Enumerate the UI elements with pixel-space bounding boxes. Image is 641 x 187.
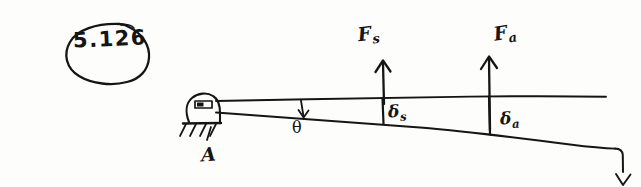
deflection-ds-base: δ xyxy=(387,101,399,122)
horizontal-reference-line xyxy=(216,96,606,101)
pin-support-A xyxy=(180,94,221,140)
support-label-a: A xyxy=(200,145,216,165)
angle-indicator-arrow xyxy=(299,101,309,118)
sloped-bar xyxy=(216,113,631,186)
deflection-ds-subscript: s xyxy=(399,109,407,123)
deflection-tick-ds xyxy=(383,98,384,124)
force-label-fs: Fs xyxy=(357,23,381,48)
problem-number-label: 5.126 xyxy=(73,27,148,51)
force-fs-subscript: s xyxy=(371,31,381,47)
deflection-da-base: δ xyxy=(499,108,511,129)
handwritten-diagram-sheet: 5.126 Fs Fa δs δa θ A xyxy=(0,0,641,187)
deflection-label-ds: δs xyxy=(387,103,406,124)
angle-label-theta: θ xyxy=(292,120,302,136)
force-label-fa: Fa xyxy=(492,21,518,47)
deflection-tick-da xyxy=(489,97,490,135)
deflection-da-subscript: a xyxy=(511,116,520,130)
force-fa-base: F xyxy=(492,21,509,45)
deflection-label-da: δa xyxy=(499,110,519,131)
force-fs-base: F xyxy=(356,22,372,45)
